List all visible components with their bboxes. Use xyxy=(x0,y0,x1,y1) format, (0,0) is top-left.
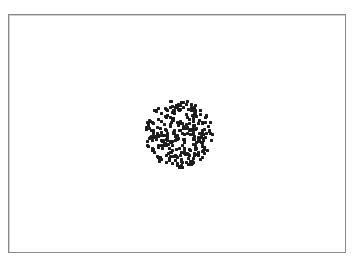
scatter-dot xyxy=(179,129,182,132)
scatter-dot xyxy=(160,120,163,123)
scatter-dot xyxy=(150,129,153,132)
scatter-dot xyxy=(192,157,195,160)
scatter-dot xyxy=(165,154,168,157)
scatter-dot xyxy=(172,117,175,120)
scatter-dot xyxy=(202,139,205,142)
scatter-dot xyxy=(203,128,206,131)
scatter-dot xyxy=(199,113,202,116)
scatter-dot xyxy=(180,101,183,104)
scatter-dot xyxy=(145,128,148,131)
scatter-dot xyxy=(174,159,177,162)
scatter-dot xyxy=(201,122,204,125)
scatter-dot xyxy=(164,128,167,131)
scatter-dot xyxy=(171,162,174,165)
scatter-dot xyxy=(180,158,183,161)
scatter-dot xyxy=(164,107,167,110)
scatter-dot xyxy=(159,127,162,130)
scatter-dot xyxy=(193,109,196,112)
dot-cluster xyxy=(0,0,359,261)
scatter-dot xyxy=(188,129,191,132)
scatter-dot xyxy=(182,106,185,109)
scatter-dot xyxy=(184,153,187,156)
scatter-dot xyxy=(183,141,186,144)
scatter-dot xyxy=(199,109,202,112)
scatter-dot xyxy=(168,157,171,160)
scatter-dot xyxy=(188,118,191,121)
scatter-dot xyxy=(161,147,164,150)
scatter-dot xyxy=(194,147,197,150)
scatter-dot xyxy=(176,162,179,165)
scatter-dot xyxy=(192,117,195,120)
scatter-dot xyxy=(163,123,166,126)
scatter-dot xyxy=(157,144,160,147)
scatter-dot xyxy=(178,166,181,169)
scatter-dot xyxy=(181,166,184,169)
scatter-dot xyxy=(199,158,202,161)
scatter-dot xyxy=(205,115,208,118)
scatter-dot xyxy=(191,129,194,132)
scatter-dot xyxy=(151,139,154,142)
scatter-dot xyxy=(202,149,205,152)
scatter-dot xyxy=(166,132,169,135)
scatter-dot xyxy=(152,148,155,151)
scatter-dot xyxy=(177,137,180,140)
scatter-dot xyxy=(151,121,154,124)
scatter-dot xyxy=(203,152,206,155)
scatter-dot xyxy=(160,112,163,115)
scatter-dot xyxy=(188,122,191,125)
scatter-dot xyxy=(178,147,181,150)
scatter-dot xyxy=(171,111,174,114)
scatter-dot xyxy=(185,103,188,106)
scatter-dot xyxy=(192,120,195,123)
scatter-dot xyxy=(176,106,179,109)
scatter-dot xyxy=(165,161,168,164)
scatter-dot xyxy=(181,132,184,135)
scatter-dot xyxy=(210,139,213,142)
scatter-dot xyxy=(172,132,175,135)
scatter-dot xyxy=(181,144,184,147)
scatter-dot xyxy=(204,121,207,124)
scatter-dot xyxy=(207,125,210,128)
scatter-dot xyxy=(191,114,194,117)
scatter-dot xyxy=(192,143,195,146)
scatter-dot xyxy=(181,161,184,164)
scatter-dot xyxy=(204,136,207,139)
scatter-dot xyxy=(209,132,212,135)
scatter-dot xyxy=(170,141,173,144)
scatter-dot xyxy=(163,142,166,145)
scatter-dot xyxy=(190,103,193,106)
scatter-dot xyxy=(166,139,169,142)
scatter-dot xyxy=(201,144,204,147)
scatter-dot xyxy=(208,129,211,132)
scatter-dot xyxy=(177,108,180,111)
scatter-dot xyxy=(147,124,150,127)
scatter-dot xyxy=(187,153,190,156)
scatter-dot xyxy=(161,134,164,137)
scatter-dot xyxy=(193,152,196,155)
scatter-dot xyxy=(187,108,190,111)
scatter-dot xyxy=(197,122,200,125)
scatter-dot xyxy=(149,136,152,139)
scatter-dot xyxy=(195,127,198,130)
scatter-dot xyxy=(195,115,198,118)
scatter-dot xyxy=(183,133,186,136)
scatter-dot xyxy=(197,151,200,154)
scatter-dot xyxy=(169,100,172,103)
scatter-dot xyxy=(205,132,208,135)
scatter-dot xyxy=(146,140,149,143)
scatter-dot xyxy=(201,156,204,159)
scatter-dot xyxy=(195,141,198,144)
scatter-dot xyxy=(209,121,212,124)
scatter-dot xyxy=(160,131,163,134)
scatter-dot xyxy=(169,151,172,154)
scatter-dot xyxy=(197,136,200,139)
scatter-dot xyxy=(165,116,168,119)
scatter-dot xyxy=(185,113,188,116)
scatter-dot xyxy=(181,122,184,125)
scatter-dot xyxy=(146,144,149,147)
scatter-dot xyxy=(179,154,182,157)
scatter-dot xyxy=(155,109,158,112)
scatter-dot xyxy=(189,149,192,152)
scatter-dot xyxy=(191,161,194,164)
scatter-dot xyxy=(158,160,161,163)
